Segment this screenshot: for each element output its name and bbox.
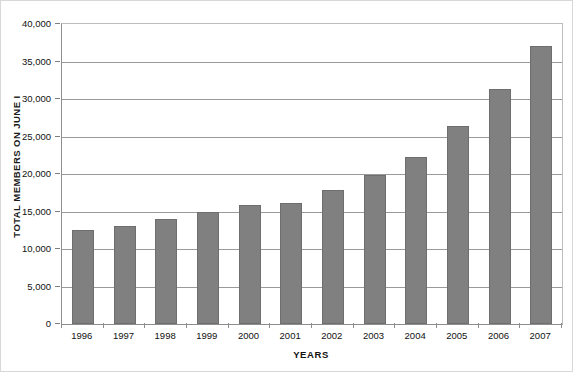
y-axis-tick-label: 10,000	[0, 243, 51, 254]
x-axis-tick-label: 2000	[227, 330, 271, 341]
y-axis-tick-mark	[55, 23, 60, 24]
x-axis-tick-label: 1999	[185, 330, 229, 341]
gridline	[62, 62, 562, 63]
x-axis-tick-mark	[353, 323, 354, 328]
x-axis-tick-mark	[61, 323, 62, 328]
y-axis-tick-label: 30,000	[0, 93, 51, 104]
gridline	[62, 174, 562, 175]
y-axis-tick-mark	[55, 173, 60, 174]
bar	[197, 212, 219, 325]
bar	[364, 175, 386, 324]
x-axis-tick-label: 1998	[143, 330, 187, 341]
gridline	[62, 137, 562, 138]
x-axis-tick-mark	[478, 323, 479, 328]
x-axis-title: YEARS	[61, 349, 561, 360]
y-axis-tick-label: 0	[0, 318, 51, 329]
y-axis-tick-label: 35,000	[0, 55, 51, 66]
bar	[447, 126, 469, 324]
x-axis-tick-label: 2006	[477, 330, 521, 341]
y-axis-tick-label: 15,000	[0, 205, 51, 216]
bar	[239, 205, 261, 324]
bar	[155, 219, 177, 324]
bar	[405, 157, 427, 324]
bar-chart: TOTAL MEMBERS ON JUNE I 05,00010,00015,0…	[0, 0, 573, 372]
x-axis-tick-mark	[186, 323, 187, 328]
x-axis-tick-label: 2001	[268, 330, 312, 341]
y-axis-tick-mark	[55, 136, 60, 137]
x-axis-tick-mark	[394, 323, 395, 328]
gridline	[62, 249, 562, 250]
y-axis-tick-label: 5,000	[0, 280, 51, 291]
gridline	[62, 212, 562, 213]
x-axis-tick-mark	[144, 323, 145, 328]
bar	[72, 230, 94, 324]
plot-area	[61, 23, 563, 325]
x-axis-tick-mark	[269, 323, 270, 328]
x-axis-tick-mark	[228, 323, 229, 328]
y-axis-tick-mark	[55, 248, 60, 249]
y-axis-tick-mark	[55, 323, 60, 324]
y-axis-tick-mark	[55, 211, 60, 212]
x-axis-tick-mark	[311, 323, 312, 328]
x-axis-tick-mark	[103, 323, 104, 328]
y-axis-tick-label: 20,000	[0, 168, 51, 179]
x-axis-tick-label: 1997	[102, 330, 146, 341]
x-axis-tick-mark	[519, 323, 520, 328]
y-axis-tick-mark	[55, 98, 60, 99]
y-axis-tick-mark	[55, 286, 60, 287]
x-axis-tick-mark	[436, 323, 437, 328]
bar	[280, 203, 302, 325]
gridline	[62, 99, 562, 100]
y-axis-tick-label: 25,000	[0, 130, 51, 141]
x-axis-tick-label: 2007	[518, 330, 562, 341]
y-axis-tick-mark	[55, 61, 60, 62]
x-axis-tick-label: 2002	[310, 330, 354, 341]
x-axis-tick-label: 2005	[435, 330, 479, 341]
gridline	[62, 287, 562, 288]
x-axis-tick-label: 2003	[352, 330, 396, 341]
bar	[114, 226, 136, 324]
y-axis-tick-label: 40,000	[0, 18, 51, 29]
bar	[489, 89, 511, 324]
x-axis-tick-label: 1996	[60, 330, 104, 341]
x-axis-tick-mark	[561, 323, 562, 328]
x-axis-tick-label: 2004	[393, 330, 437, 341]
bar	[530, 46, 552, 324]
bar	[322, 190, 344, 324]
